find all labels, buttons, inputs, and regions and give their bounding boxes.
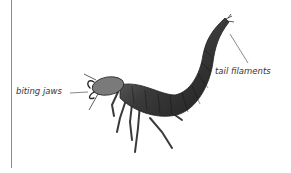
tail-filaments-label: tail filaments xyxy=(215,66,271,76)
biting-jaws-label: biting jaws xyxy=(16,86,62,96)
biting-jaws-leader xyxy=(70,92,88,93)
tail-filaments-leader xyxy=(230,34,248,63)
larva-abdomen xyxy=(120,18,229,116)
tail-filament-tips xyxy=(226,14,234,22)
